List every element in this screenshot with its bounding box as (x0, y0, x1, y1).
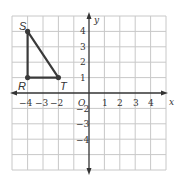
y-tick-labels: 4 3 2 1 −2 −3 −4 (76, 26, 90, 145)
x-tick-label: 2 (117, 98, 123, 108)
y-tick-label: −3 (76, 119, 90, 129)
x-axis-label: x (169, 97, 174, 107)
x-tick-label: 1 (102, 98, 108, 108)
y-axis-label: y (93, 15, 100, 25)
x-tick-label: 4 (148, 98, 154, 108)
x-tick-label: −3 (35, 98, 49, 108)
y-tick-label: 3 (80, 42, 86, 52)
y-tick-label: −4 (76, 135, 90, 145)
y-tick-label: 2 (80, 57, 86, 67)
x-tick-label: −4 (19, 98, 33, 108)
x-tick-label: −2 (50, 98, 63, 108)
y-tick-label: −2 (76, 104, 89, 114)
x-axis-arrow-left-icon (10, 91, 17, 96)
coordinate-plane: y x O −4 −3 −2 1 2 3 4 4 3 2 1 −2 −3 −4 … (0, 0, 178, 180)
vertex-label-s: S (19, 20, 27, 32)
vertex-label-r: R (18, 80, 26, 92)
x-tick-label: 3 (133, 98, 139, 108)
y-tick-label: 1 (80, 73, 86, 83)
y-axis-arrow-down-icon (87, 168, 92, 175)
vertex-label-t: T (60, 80, 68, 92)
y-tick-label: 4 (80, 26, 86, 36)
x-axis-arrow-right-icon (161, 91, 168, 96)
